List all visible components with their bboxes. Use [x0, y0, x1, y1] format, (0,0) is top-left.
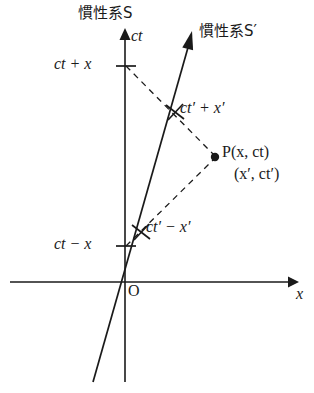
ct-axis — [120, 28, 131, 382]
x-axis-label: x — [296, 286, 303, 303]
point-p-marker — [211, 153, 219, 161]
ct-axis-label: ct — [131, 28, 143, 45]
ct-minus-x-label: ct − x — [54, 236, 91, 253]
x-axis — [10, 277, 299, 288]
point-p-label-line1: P(x, ct) — [222, 144, 269, 161]
ct-prime-plus-x-prime-label: ct′ + x′ — [180, 100, 224, 117]
frame-s-label: 慣性系S — [78, 6, 133, 22]
frame-s-prime-label: 慣性系S′ — [199, 24, 257, 40]
point-p-label-line2: (x′, ct′) — [234, 166, 279, 183]
origin-label: O — [128, 283, 140, 300]
diagram-canvas — [0, 0, 314, 393]
spacetime-diagram-figure: 慣性系S 慣性系S′ ct x ct + x ct − x ct′ + x′ c… — [0, 0, 314, 393]
ct-prime-minus-x-prime-label: ct′ − x′ — [146, 219, 190, 236]
ct-plus-x-label: ct + x — [54, 56, 91, 73]
